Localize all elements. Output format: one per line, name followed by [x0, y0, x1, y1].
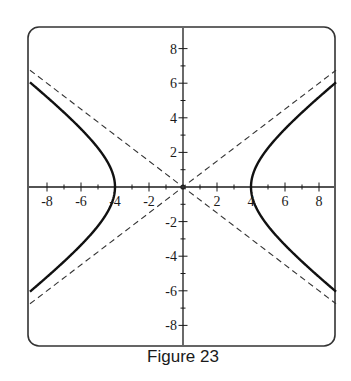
hyperbola-plot: -8-6-4-22468-8-6-4-22468: [0, 0, 351, 381]
x-tick-label: -8: [41, 194, 53, 209]
x-tick-label: -2: [143, 194, 155, 209]
y-tick-label: -4: [165, 249, 177, 264]
y-tick-label: -6: [165, 284, 177, 299]
x-tick-label: 4: [248, 194, 255, 209]
y-tick-label: -2: [165, 215, 177, 230]
y-tick-label: 8: [170, 42, 177, 57]
y-tick-label: 4: [170, 111, 177, 126]
x-tick-label: 6: [282, 194, 289, 209]
x-tick-label: 8: [316, 194, 323, 209]
x-tick-label: 2: [214, 194, 221, 209]
y-tick-label: -8: [165, 318, 177, 333]
y-tick-label: 6: [170, 76, 177, 91]
x-tick-label: -6: [75, 194, 87, 209]
y-tick-label: 2: [170, 145, 177, 160]
figure-caption: Figure 23: [0, 347, 351, 367]
x-tick-label: -4: [109, 194, 121, 209]
